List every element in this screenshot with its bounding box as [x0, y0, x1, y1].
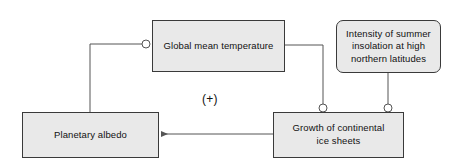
connector-albedo-to-temperature: [90, 44, 142, 112]
node-global-mean-temperature-label: Global mean temperature: [163, 40, 273, 53]
node-global-mean-temperature: Global mean temperature: [152, 20, 285, 72]
node-summer-insolation: Intensity of summer insolation at high n…: [336, 20, 441, 73]
feedback-sign-label: (+): [202, 93, 218, 105]
junction-circle-temperature-left: [142, 40, 150, 48]
junction-circle-ice-sheets-insolation: [384, 104, 392, 112]
junction-circle-ice-sheets-temperature: [319, 104, 327, 112]
node-planetary-albedo-label: Planetary albedo: [54, 129, 127, 142]
feedback-diagram: Global mean temperature Intensity of sum…: [0, 0, 457, 168]
node-summer-insolation-label: Intensity of summer insolation at high n…: [346, 28, 431, 66]
node-planetary-albedo: Planetary albedo: [22, 112, 159, 158]
node-continental-ice-sheets: Growth of continental ice sheets: [273, 112, 404, 158]
connector-temperature-to-ice-sheets: [285, 45, 323, 104]
node-continental-ice-sheets-label: Growth of continental ice sheets: [293, 122, 385, 147]
